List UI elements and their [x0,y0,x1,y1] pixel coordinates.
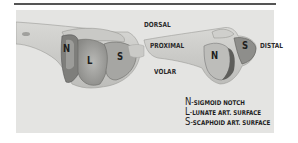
right-region-n: N [211,50,218,61]
label-proximal: PROXIMAL [150,42,184,50]
left-region-s: S [117,51,123,62]
legend-item-s: S - SCAPHOID ART. SURFACE [185,116,270,126]
legend: N - SIGMOID NOTCH L - LUNATE ART. SURFAC… [185,96,285,126]
legend-item-n: N - SIGMOID NOTCH [185,96,270,106]
label-volar: VOLAR [154,68,176,76]
bone-overlap [128,45,144,58]
top-rule [14,3,276,5]
right-region-s: S [242,40,248,51]
legend-text: SCAPHOID ART. SURFACE [193,119,270,127]
left-region-l: L [87,55,92,66]
legend-item-l: L - LUNATE ART. SURFACE [185,106,270,116]
label-dorsal: DORSAL [144,21,171,29]
label-distal: DISTAL [260,42,283,50]
left-region-n: N [63,43,70,54]
